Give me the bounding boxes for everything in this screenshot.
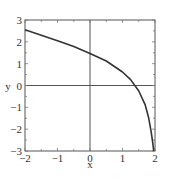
data-line — [25, 30, 154, 151]
x-axis-label: x — [87, 158, 93, 170]
y-tick-label: −3 — [10, 145, 22, 157]
chart: −2−1012−3−2−10123 x y — [0, 0, 170, 182]
y-tick-label: −2 — [10, 123, 22, 135]
x-tick-label: 2 — [152, 152, 158, 164]
y-axis-label: y — [5, 80, 11, 92]
y-tick-label: 1 — [17, 58, 23, 70]
tick-labels: −2−1012−3−2−10123 — [10, 14, 157, 164]
y-tick-label: 2 — [17, 36, 23, 48]
y-tick-label: −1 — [10, 101, 22, 113]
x-tick-label: −1 — [52, 152, 64, 164]
y-tick-label: 0 — [17, 80, 23, 92]
plot-curve — [25, 30, 154, 151]
x-tick-label: 1 — [120, 152, 126, 164]
y-tick-label: 3 — [17, 14, 23, 26]
